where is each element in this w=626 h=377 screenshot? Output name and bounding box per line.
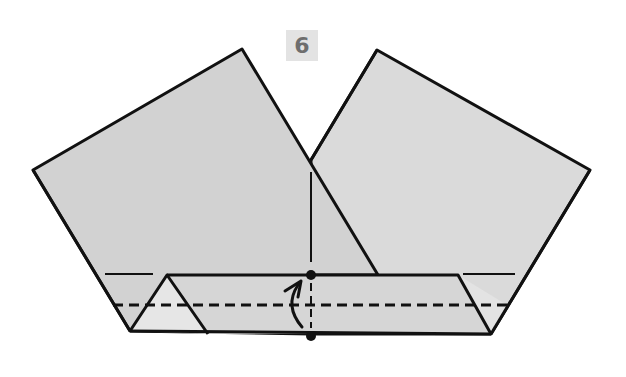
origami-diagram: 6 xyxy=(0,0,626,377)
step-number-badge: 6 xyxy=(286,30,318,61)
reference-point-top xyxy=(306,270,316,280)
reference-point-bottom xyxy=(306,331,316,341)
